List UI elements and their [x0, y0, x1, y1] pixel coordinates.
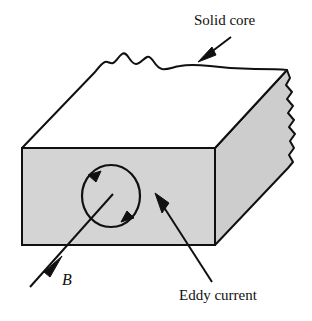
solid-core-label: Solid core [194, 13, 255, 28]
solid-core-arrow-icon [198, 47, 216, 62]
eddy-current-label: Eddy current [179, 288, 257, 303]
solid-core-diagram [0, 0, 312, 321]
b-field-arrow-icon [44, 256, 62, 277]
eddy-current-figure: Solid core Eddy current B [0, 0, 312, 321]
b-field-label: B [62, 272, 72, 288]
core-front-face [22, 148, 215, 245]
